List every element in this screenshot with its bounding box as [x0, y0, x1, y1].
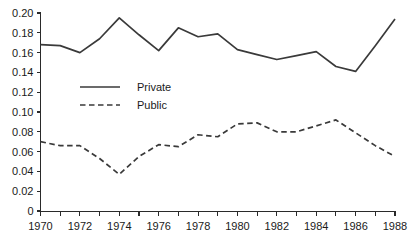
y-tick-label: 0.10: [12, 106, 33, 118]
x-tick-label: 1984: [304, 220, 328, 232]
x-tick-label: 1988: [383, 220, 407, 232]
y-tick-label: 0.02: [12, 185, 33, 197]
chart-legend: PrivatePublic: [80, 81, 171, 111]
y-tick-label: 0.04: [12, 165, 33, 177]
legend-label-public: Public: [137, 99, 167, 111]
series-line-public: [41, 120, 396, 174]
line-chart: 00.020.040.060.080.100.120.140.160.180.2…: [0, 0, 415, 241]
data-series-group: [41, 18, 396, 174]
x-tick-label: 1980: [225, 220, 249, 232]
x-tick-group: 1970197219741976197819801982198419861988: [28, 211, 407, 232]
y-tick-label: 0.08: [12, 126, 33, 138]
x-tick-label: 1982: [265, 220, 289, 232]
y-tick-group: 00.020.040.060.080.100.120.140.160.180.2…: [12, 7, 40, 217]
y-tick-label: 0.20: [12, 7, 33, 19]
x-tick-label: 1974: [107, 220, 131, 232]
y-tick-label: 0.14: [12, 66, 33, 78]
x-axis-group: 1970197219741976197819801982198419861988: [28, 211, 407, 232]
chart-canvas: 00.020.040.060.080.100.120.140.160.180.2…: [0, 0, 415, 241]
y-tick-label: 0.06: [12, 146, 33, 158]
series-line-private: [41, 18, 396, 71]
legend-label-private: Private: [137, 81, 171, 93]
x-tick-label: 1978: [186, 220, 210, 232]
x-tick-label: 1986: [343, 220, 367, 232]
x-tick-label: 1976: [146, 220, 170, 232]
y-tick-label: 0.12: [12, 86, 33, 98]
y-tick-label: 0.16: [12, 47, 33, 59]
x-tick-label: 1972: [68, 220, 92, 232]
y-tick-label: 0.18: [12, 27, 33, 39]
x-tick-label: 1970: [28, 220, 52, 232]
y-tick-label: 0: [27, 205, 33, 217]
y-axis-group: 00.020.040.060.080.100.120.140.160.180.2…: [12, 7, 40, 217]
